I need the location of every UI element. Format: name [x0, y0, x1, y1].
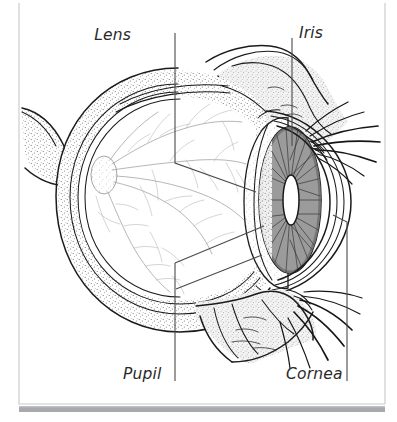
label-iris: Iris — [299, 24, 323, 42]
pupil — [283, 175, 299, 225]
leader-line-cornea — [333, 215, 347, 381]
label-cornea: Cornea — [286, 365, 343, 383]
label-lens: Lens — [94, 26, 131, 44]
optic-disc — [91, 156, 117, 194]
eye-diagram-figure: Lens Iris Pupil Cornea — [0, 0, 397, 422]
eye-anatomy-illustration: Lens Iris Pupil Cornea — [0, 0, 397, 422]
label-pupil: Pupil — [123, 365, 162, 383]
footer-bar — [19, 406, 385, 412]
